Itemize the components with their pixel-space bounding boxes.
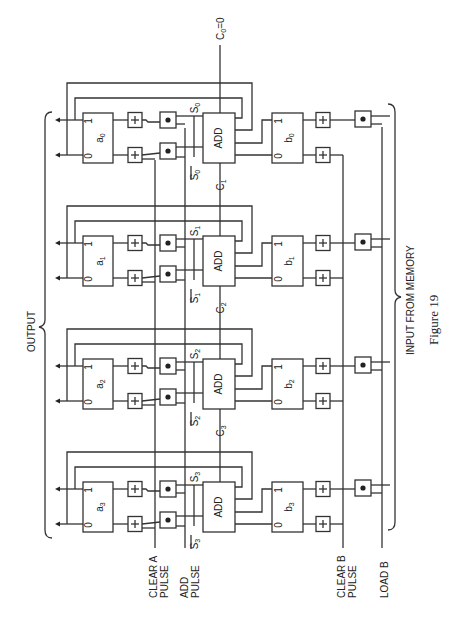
output-arrow-icon	[55, 364, 60, 369]
and-gate-load-1-dot	[360, 239, 365, 244]
output-arrow-icon	[55, 153, 60, 158]
ff-one-label: 1	[83, 241, 94, 247]
and-gate-sbar-1-dot	[165, 271, 170, 276]
carry-label: C2	[215, 302, 227, 313]
adder-label: ADD	[213, 373, 224, 394]
clear-b-label-2: PULSE	[347, 565, 358, 598]
input-label: INPUT FROM MEMORY	[405, 245, 416, 355]
add-pulse-label: ADD	[179, 577, 190, 598]
and-gate-s-1-dot	[165, 240, 170, 245]
ff-zero-label: 0	[83, 276, 94, 282]
ff-zero-label: 0	[83, 399, 94, 405]
ff-one-label: 1	[83, 487, 94, 493]
ff-zero-label: 0	[83, 153, 94, 159]
ff-one-label: 1	[273, 118, 284, 124]
load-b-label: LOAD B	[379, 561, 390, 598]
ff-zero-label: 0	[83, 522, 94, 528]
ff-zero-label: 0	[273, 399, 284, 405]
and-gate-load-2-dot	[360, 362, 365, 367]
output-arrow-icon	[55, 399, 60, 404]
and-gate-load-3-dot	[360, 485, 365, 490]
carry-in-label: C0=0	[215, 17, 227, 40]
output-arrow-icon	[55, 241, 60, 246]
clear-a-label: CLEAR A	[148, 555, 159, 598]
carry-label: C1	[215, 179, 227, 190]
output-arrow-icon	[55, 487, 60, 492]
output-brace	[39, 112, 52, 538]
clear-a-label-2: PULSE	[159, 565, 170, 598]
register-adder-diagram: C0=0 OUTPUT INPUT FROM MEMORY Figure 19 …	[0, 0, 469, 630]
add-pulse-label-2: PULSE	[190, 565, 201, 598]
control-labels: CLEAR A PULSE ADD PULSE CLEAR B PULSE LO…	[148, 555, 390, 598]
and-gate-s-2-dot	[165, 363, 170, 368]
sum-label: S0	[189, 103, 201, 114]
and-gate-s-3-dot	[165, 486, 170, 491]
clear-b-label: CLEAR B	[336, 555, 347, 598]
ff-one-label: 1	[83, 118, 94, 124]
stage-2: 10a2S2S2ADDC310b2	[55, 329, 390, 482]
ff-one-label: 1	[83, 364, 94, 370]
adder-label: ADD	[213, 496, 224, 517]
and-gate-sbar-2-dot	[165, 394, 170, 399]
stage-0: 10a0S0S0ADDC110b0	[55, 83, 390, 236]
figure-caption: Figure 19	[426, 295, 441, 345]
input-brace	[388, 104, 401, 530]
and-gate-sbar-3-dot	[165, 517, 170, 522]
adder-label: ADD	[213, 127, 224, 148]
ff-zero-label: 0	[273, 522, 284, 528]
output-arrow-icon	[55, 522, 60, 527]
stage-3: 10a3S3S3ADD10b3	[55, 452, 390, 549]
adder-label: ADD	[213, 250, 224, 271]
and-gate-s-0-dot	[165, 117, 170, 122]
sum-label: S1	[189, 226, 201, 237]
and-gate-load-0-dot	[360, 116, 365, 121]
ff-one-label: 1	[273, 487, 284, 493]
ff-one-label: 1	[273, 364, 284, 370]
sum-label: S2	[189, 349, 201, 360]
carry-label: C3	[215, 425, 227, 436]
ff-zero-label: 0	[273, 276, 284, 282]
ff-one-label: 1	[273, 241, 284, 247]
sum-label: S3	[189, 472, 201, 483]
stage-1: 10a1S1S1ADDC210b1	[55, 206, 390, 359]
output-label: OUTPUT	[26, 311, 37, 352]
output-arrow-icon	[55, 276, 60, 281]
ff-zero-label: 0	[273, 153, 284, 159]
output-arrow-icon	[55, 118, 60, 123]
and-gate-sbar-0-dot	[165, 148, 170, 153]
